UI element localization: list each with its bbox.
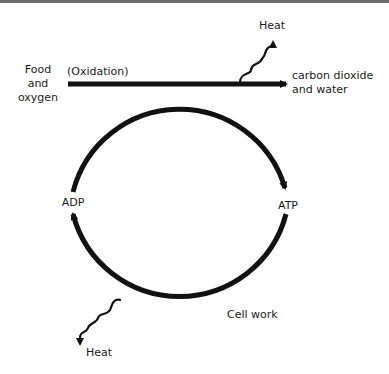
label-and-water: and water	[292, 83, 348, 96]
label-adp: ADP	[62, 196, 85, 209]
label-atp: ATP	[278, 199, 298, 212]
label-and: and	[28, 77, 49, 90]
label-food: Food	[25, 63, 51, 76]
heat-squiggle-top	[240, 42, 273, 82]
label-carbon-dioxide: carbon dioxide	[292, 69, 373, 82]
label-oxygen: oxygen	[18, 91, 58, 104]
label-heat-top: Heat	[259, 19, 286, 32]
label-heat-bottom: Heat	[86, 346, 113, 359]
cycle-arc-bottom	[73, 214, 286, 296]
label-cell-work: Cell work	[227, 308, 278, 321]
atp-cycle-diagram: Food and oxygen (Oxidation) Heat carbon …	[0, 0, 389, 374]
heat-squiggle-bottom	[80, 300, 121, 344]
cycle-arc-top	[73, 109, 285, 192]
label-oxidation: (Oxidation)	[67, 65, 129, 78]
